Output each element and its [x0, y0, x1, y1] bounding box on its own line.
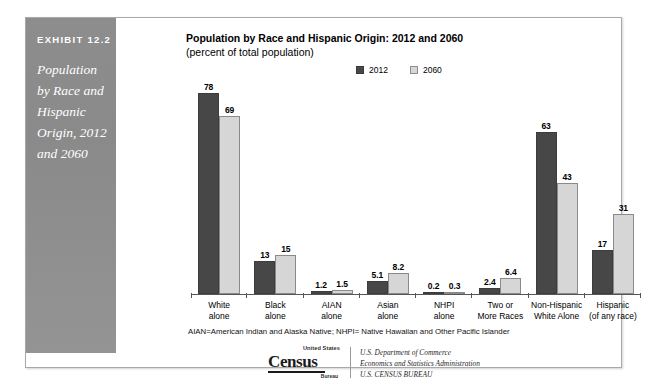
source-line-2: Economics and Statistics Administration — [360, 358, 480, 369]
legend-item-2012: 2012 — [356, 65, 388, 75]
bar-value-label: 6.4 — [505, 267, 517, 277]
x-axis-line — [191, 294, 641, 295]
bar-2060[interactable]: 15 — [275, 88, 296, 294]
legend-item-2060: 2060 — [410, 65, 442, 75]
bar-rect[interactable]: 17 — [592, 250, 613, 294]
bar-2012[interactable]: 0.2 — [423, 88, 444, 294]
bar-value-label: 0.2 — [428, 281, 440, 291]
bar-value-label: 17 — [598, 239, 607, 249]
bar-value-label: 43 — [562, 172, 571, 182]
chart-footnote: AIAN=American Indian and Alaska Native; … — [188, 327, 510, 336]
bar-group: 1315 — [247, 88, 303, 294]
legend-swatch-2060 — [410, 66, 418, 74]
legend-label-2012: 2012 — [369, 65, 388, 75]
bar-2060[interactable]: 69 — [219, 88, 240, 294]
census-logo-wordmark: Census — [268, 353, 341, 370]
exhibit-title: Population by Race and Hispanic Origin, … — [37, 60, 107, 165]
bar-2012[interactable]: 1.2 — [311, 88, 332, 294]
bar-rect[interactable]: 8.2 — [388, 273, 409, 294]
bar-rect[interactable]: 13 — [254, 261, 275, 294]
census-logo-top-text: United States — [268, 346, 340, 352]
census-logo-rule — [268, 371, 325, 374]
bar-2060[interactable]: 8.2 — [388, 88, 409, 294]
bar-group: 1731 — [585, 88, 641, 294]
x-axis-label: Asianalone — [360, 300, 416, 322]
source-block: United States Census Bureau U.S. Departm… — [268, 345, 480, 380]
bar-rect[interactable]: 15 — [275, 255, 296, 294]
x-axis-label: NHPIalone — [416, 300, 472, 322]
source-line-1: U.S. Department of Commerce — [360, 347, 480, 358]
bar-2060[interactable]: 1.5 — [332, 88, 353, 294]
bar-value-label: 0.3 — [449, 281, 461, 291]
bar-value-label: 2.4 — [484, 277, 496, 287]
bar-value-label: 63 — [541, 121, 550, 131]
x-axis-label: Two orMore Races — [472, 300, 528, 322]
bar-value-label: 13 — [260, 250, 269, 260]
bar-value-label: 1.5 — [336, 279, 348, 289]
bar-rect[interactable]: 63 — [536, 132, 557, 294]
legend-swatch-2012 — [356, 66, 364, 74]
bar-rect[interactable]: 43 — [557, 183, 578, 294]
chart-subtitle: (percent of total population) — [186, 46, 314, 58]
x-axis-label: AIANalone — [304, 300, 360, 322]
bar-group: 5.18.2 — [360, 88, 416, 294]
x-axis-label: Blackalone — [247, 300, 303, 322]
bar-value-label: 5.1 — [371, 270, 383, 280]
bar-value-label: 31 — [619, 203, 628, 213]
bar-2060[interactable]: 6.4 — [500, 88, 521, 294]
bar-group: 1.21.5 — [304, 88, 360, 294]
bar-2012[interactable]: 17 — [592, 88, 613, 294]
x-axis-label: Non-HispanicWhite Alone — [529, 300, 585, 322]
bar-rect[interactable]: 78 — [198, 93, 219, 294]
bar-2012[interactable]: 5.1 — [367, 88, 388, 294]
source-text: U.S. Department of Commerce Economics an… — [360, 345, 480, 380]
bar-2012[interactable]: 78 — [198, 88, 219, 294]
exhibit-label-panel: EXHIBIT 12.2 Population by Race and Hisp… — [26, 18, 116, 353]
bar-value-label: 1.2 — [315, 280, 327, 290]
chart-title: Population by Race and Hispanic Origin: … — [186, 32, 463, 44]
x-axis-label: Hispanic(of any race) — [585, 300, 641, 322]
chart-legend: 2012 2060 — [356, 65, 442, 75]
bar-group: 0.20.3 — [416, 88, 472, 294]
x-axis-labels: WhitealoneBlackaloneAIANaloneAsianaloneN… — [191, 300, 641, 322]
page-root: EXHIBIT 12.2 Population by Race and Hisp… — [0, 0, 647, 387]
bar-rect[interactable]: 69 — [219, 116, 240, 294]
bar-2060[interactable]: 0.3 — [444, 88, 465, 294]
bar-2060[interactable]: 43 — [557, 88, 578, 294]
bar-rect[interactable]: 31 — [613, 214, 634, 294]
bar-value-label: 78 — [204, 82, 213, 92]
exhibit-frame: EXHIBIT 12.2 Population by Race and Hisp… — [25, 17, 622, 368]
source-line-3: U.S. CENSUS BUREAU — [360, 369, 480, 380]
x-axis-label: Whitealone — [191, 300, 247, 322]
bar-rect[interactable]: 6.4 — [500, 278, 521, 294]
bar-value-label: 8.2 — [392, 262, 404, 272]
bar-value-label: 15 — [281, 244, 290, 254]
bar-group: 7869 — [191, 88, 247, 294]
bar-2060[interactable]: 31 — [613, 88, 634, 294]
census-logo-bottom-text: Bureau — [268, 374, 338, 379]
source-divider — [350, 347, 351, 378]
bar-rect[interactable]: 5.1 — [367, 281, 388, 294]
bar-group: 2.46.4 — [472, 88, 528, 294]
plot-area: 786913151.21.55.18.20.20.32.46.463431731 — [191, 88, 641, 295]
exhibit-number: EXHIBIT 12.2 — [37, 34, 107, 45]
census-logo: United States Census Bureau — [268, 345, 341, 379]
bar-2012[interactable]: 63 — [536, 88, 557, 294]
bar-2012[interactable]: 13 — [254, 88, 275, 294]
bar-2012[interactable]: 2.4 — [479, 88, 500, 294]
bar-group: 6343 — [529, 88, 585, 294]
chart-region: Population by Race and Hispanic Origin: … — [116, 18, 621, 367]
legend-label-2060: 2060 — [423, 65, 442, 75]
bars-container: 786913151.21.55.18.20.20.32.46.463431731 — [191, 88, 641, 294]
bar-value-label: 69 — [225, 105, 234, 115]
